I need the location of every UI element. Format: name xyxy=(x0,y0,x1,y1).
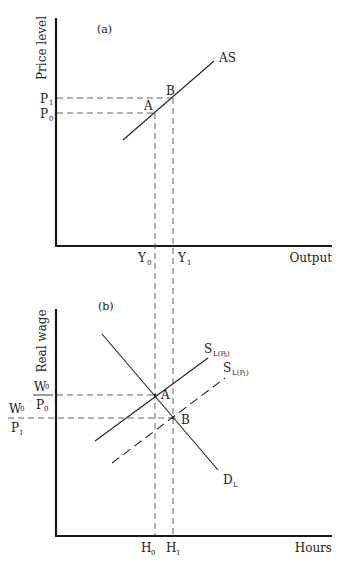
panel-a-label: (a) xyxy=(97,23,112,36)
h1-label: H 1 xyxy=(166,541,180,557)
w0-p0-fraction-label: W 0 P 0 xyxy=(33,380,53,413)
svg-text:0: 0 xyxy=(20,405,24,413)
point-a-label: A xyxy=(143,99,153,113)
labor-supply-p0-curve xyxy=(95,358,208,441)
point-b-label-b: B xyxy=(181,413,190,427)
panel-a-x-axis-label: Output xyxy=(289,251,332,265)
p0-label: P 0 xyxy=(40,107,53,123)
economics-diagram: (a) Price level Output AS A B P 1 P 0 Y … xyxy=(0,0,348,565)
point-b-marker xyxy=(172,417,175,420)
svg-text:0: 0 xyxy=(45,383,49,391)
svg-text:P: P xyxy=(11,421,19,435)
svg-text:Y: Y xyxy=(177,251,187,265)
panel-a-y-axis-label: Price level xyxy=(35,16,49,80)
p1-label: P 1 xyxy=(40,92,53,107)
aggregate-supply-curve xyxy=(123,61,214,140)
svg-text:0: 0 xyxy=(44,405,48,413)
panel-b-y-axis-label: Real wage xyxy=(35,309,49,372)
svg-text:0: 0 xyxy=(49,115,53,123)
svg-text:0: 0 xyxy=(147,259,151,267)
svg-text:P: P xyxy=(36,398,44,412)
svg-text:0: 0 xyxy=(151,549,155,557)
h0-label: H 0 xyxy=(141,541,155,557)
as-curve-label: AS xyxy=(218,51,236,65)
svg-text:1: 1 xyxy=(49,99,53,107)
supply-p0-label: S L(P 0 ) xyxy=(204,342,230,358)
svg-text:S: S xyxy=(204,342,212,356)
point-a-label-b: A xyxy=(160,388,170,402)
svg-text:D: D xyxy=(223,473,233,487)
labor-demand-curve xyxy=(102,334,218,470)
svg-text:H: H xyxy=(166,541,176,555)
svg-text:H: H xyxy=(141,541,151,555)
y1-label: Y 1 xyxy=(177,251,191,267)
svg-text:1: 1 xyxy=(176,549,180,557)
panel-b-x-axis-label: Hours xyxy=(295,541,332,555)
point-a-marker xyxy=(154,394,157,397)
svg-text:P: P xyxy=(40,107,48,121)
svg-text:S: S xyxy=(223,361,231,375)
panel-a: (a) Price level Output AS A B P 1 P 0 Y … xyxy=(35,16,332,267)
svg-text:L: L xyxy=(233,481,238,489)
svg-text:1: 1 xyxy=(187,259,191,267)
panel-b: (b) Real wage Hours D L S L(P 0 ) S L(P … xyxy=(8,300,332,557)
svg-text:): ) xyxy=(227,350,230,358)
svg-text:P: P xyxy=(40,92,48,106)
point-b-label: B xyxy=(166,84,175,98)
svg-text:): ) xyxy=(246,369,249,377)
svg-text:1: 1 xyxy=(19,429,23,437)
demand-label: D L xyxy=(223,473,238,489)
supply-p1-label: S L(P 1 ) xyxy=(223,361,249,377)
svg-text:Y: Y xyxy=(137,251,147,265)
w0-p1-fraction-label: W 0 P 1 xyxy=(9,402,24,437)
y0-label: Y 0 xyxy=(137,251,151,267)
panel-b-label: (b) xyxy=(98,300,114,313)
